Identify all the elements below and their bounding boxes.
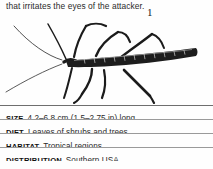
- fact-value-distribution: Southern USA: [66, 156, 119, 161]
- fact-row-diet: DIETLeaves of shrubs and trees: [0, 119, 213, 133]
- stick-insect-illustration: [0, 12, 213, 104]
- continuation-caption: that irritates the eyes of the attacker.: [6, 1, 206, 12]
- field-guide-entry: that irritates the eyes of the attacker.…: [0, 0, 213, 169]
- fact-table: SIZE4.2–6.8 cm (1.5–2.75 in) long DIETLe…: [0, 105, 213, 161]
- fact-row-distribution: DISTRIBUTIONSouthern USA: [0, 147, 213, 161]
- fact-row-habitat: HABITATTropical regions: [0, 133, 213, 147]
- fact-row-size: SIZE4.2–6.8 cm (1.5–2.75 in) long: [0, 105, 213, 119]
- fact-label-distribution: DISTRIBUTION: [6, 156, 62, 161]
